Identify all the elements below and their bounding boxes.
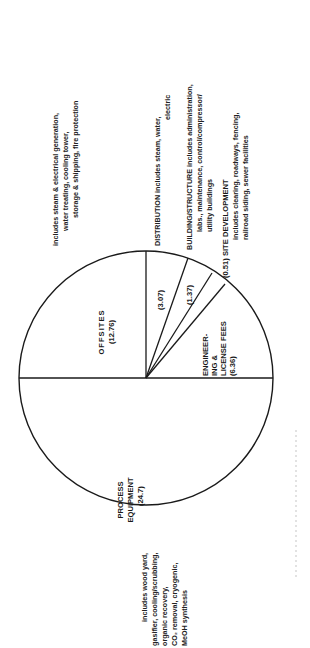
svg-text:(3.07): (3.07) [156,290,165,310]
note-process-equipment: includes wood yard, gasifier, cooling/sc… [140,553,189,646]
svg-text:(0.51) SITE DEVELOPMENT: (0.51) SITE DEVELOPMENT [221,179,230,278]
svg-text:(24.7): (24.7) [136,486,145,506]
svg-text:LICENSE FEES: LICENSE FEES [219,321,228,376]
svg-text:water treating, cooling tower,: water treating, cooling tower, [61,132,70,232]
svg-text:electric: electric [163,95,172,120]
svg-text:(12.76): (12.76) [107,319,116,344]
svg-text:organic recovery,: organic recovery, [160,587,169,646]
slice-label-distribution: (3.07) [156,290,165,310]
svg-text:PROCESS: PROCESS [116,481,125,518]
svg-text:(6.36): (6.36) [228,356,237,376]
pie-chart: PROCESS EQUIPMENT (24.7) OFFSITES (12.76… [0,0,310,648]
svg-text:OFFSITES: OFFSITES [97,309,106,354]
svg-text:includes clearing, roadways, f: includes clearing, roadways, fencing, [231,113,240,240]
svg-text:gasifier, cooling/scrubbing,: gasifier, cooling/scrubbing, [150,553,159,646]
svg-text:includes steam & electrical ge: includes steam & electrical generation, [51,113,60,246]
svg-text:storage & shipping, fire prote: storage & shipping, fire protection [71,101,80,218]
slice-label-building: (1.37) [185,285,194,305]
svg-text:EQUIPMENT: EQUIPMENT [126,477,135,523]
note-distribution: DISTRIBUTION includes steam, water, elec… [153,95,172,246]
note-site-development: (0.51) SITE DEVELOPMENT includes clearin… [221,113,250,278]
svg-text:BUILDING/STRUCTURE includes a: BUILDING/STRUCTURE includes administrati… [185,84,194,250]
svg-text:utility buildings: utility buildings [205,179,214,232]
svg-text:railroad siding, sewer facilit: railroad siding, sewer facilities [241,135,250,240]
svg-text:ENGINEER-: ENGINEER- [201,333,210,376]
note-offsites: includes steam & electrical generation, … [51,101,80,246]
svg-text:CO₂ removal, cryogenic,: CO₂ removal, cryogenic, [170,563,179,647]
note-building: BUILDING/STRUCTURE includes administrati… [185,84,214,250]
svg-text:MeOH synthesis: MeOH synthesis [180,590,189,646]
svg-text:ING &: ING & [210,354,219,376]
svg-text:DISTRIBUTION includes steam,: DISTRIBUTION includes steam, water, [153,117,162,246]
svg-text:labs., maintenance, control/co: labs., maintenance, control/compressor/ [195,94,204,232]
svg-text:includes wood yard,: includes wood yard, [140,553,149,622]
svg-text:(1.37): (1.37) [185,285,194,305]
